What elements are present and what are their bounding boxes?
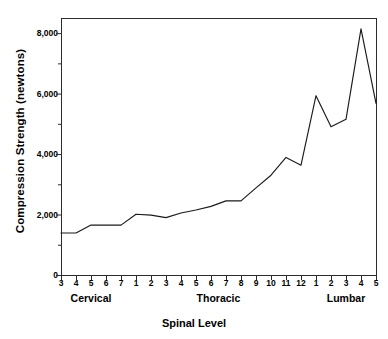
- x-tick-label-16: 12: [293, 279, 309, 288]
- x-tick-label-3: 6: [98, 279, 114, 288]
- x-tick-label-14: 10: [263, 279, 279, 288]
- x-tick-label-13: 9: [248, 279, 264, 288]
- x-axis-title: Spinal Level: [0, 317, 388, 329]
- x-tick-label-0: 3: [53, 279, 69, 288]
- x-tick-label-2: 5: [83, 279, 99, 288]
- x-tick-label-11: 7: [218, 279, 234, 288]
- x-tick-label-7: 3: [158, 279, 174, 288]
- x-group-label-lumbar: Lumbar: [286, 292, 388, 304]
- x-tick-label-10: 6: [203, 279, 219, 288]
- x-tick-label-17: 1: [308, 279, 324, 288]
- x-tick-label-4: 7: [113, 279, 129, 288]
- plot-area: [0, 0, 388, 339]
- plot-frame: [62, 19, 377, 276]
- compression-strength-line-chart: Compression Strength (newtons) 02,0004,0…: [0, 0, 388, 339]
- x-tick-label-12: 8: [233, 279, 249, 288]
- x-tick-label-18: 2: [323, 279, 339, 288]
- x-group-label-thoracic: Thoracic: [159, 292, 279, 304]
- x-tick-label-6: 2: [143, 279, 159, 288]
- data-line-compression-strength: [61, 29, 376, 233]
- x-tick-label-8: 4: [173, 279, 189, 288]
- x-tick-label-19: 3: [338, 279, 354, 288]
- x-tick-label-20: 4: [353, 279, 369, 288]
- x-tick-label-1: 4: [68, 279, 84, 288]
- x-tick-label-5: 1: [128, 279, 144, 288]
- x-tick-label-15: 11: [278, 279, 294, 288]
- x-group-label-cervical: Cervical: [31, 292, 151, 304]
- x-tick-label-21: 5: [368, 279, 384, 288]
- x-tick-label-9: 5: [188, 279, 204, 288]
